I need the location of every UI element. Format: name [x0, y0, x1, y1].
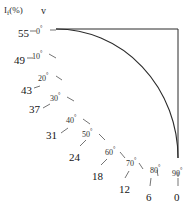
- degree-sign: °: [158, 164, 160, 170]
- degree-sign: °: [58, 92, 60, 98]
- curve-tick-mark: [120, 152, 125, 158]
- value-label: 0: [174, 192, 180, 203]
- degree-sign: °: [40, 50, 42, 56]
- value-axis-header: If(%): [4, 6, 23, 15]
- value-tick-mark: [43, 104, 50, 108]
- value-label: 18: [92, 171, 103, 182]
- chart-figure: If(%) v 550°4910°4320°3730°3140°2450°186…: [0, 0, 195, 209]
- value-label: 43: [21, 85, 32, 96]
- value-tick-mark: [80, 140, 86, 146]
- degree-sign: °: [134, 157, 136, 163]
- value-tick-mark: [61, 128, 68, 133]
- value-label: 24: [69, 152, 80, 163]
- tick-mark-group: [27, 30, 178, 186]
- angle-axis-header: v: [41, 6, 46, 16]
- degree-sign: °: [74, 114, 76, 120]
- angle-label: 80°: [150, 167, 160, 175]
- angle-label-number: 30: [50, 94, 58, 103]
- degree-sign: °: [40, 25, 42, 31]
- angle-label: 90°: [172, 170, 182, 178]
- value-tick-mark: [150, 178, 151, 186]
- curve-tick-mark: [99, 134, 105, 140]
- angle-label-number: 70: [126, 159, 134, 168]
- angle-label: 0°: [36, 28, 42, 36]
- value-tick-mark: [125, 171, 129, 178]
- curve-tick-mark: [83, 119, 90, 124]
- angle-label: 20°: [38, 75, 48, 83]
- angle-label: 40°: [66, 117, 76, 125]
- value-tick-mark: [101, 159, 107, 165]
- angle-label-number: 50: [82, 130, 90, 139]
- angle-label: 30°: [50, 95, 60, 103]
- curve-tick-mark: [56, 76, 62, 80]
- degree-sign: °: [90, 128, 92, 134]
- value-label: 55: [18, 28, 29, 39]
- angle-label: 10°: [32, 53, 42, 61]
- value-label: 6: [146, 192, 152, 203]
- value-label: 49: [14, 55, 25, 66]
- angle-label-number: 90: [172, 169, 180, 178]
- value-axis-header-subscript: f: [7, 9, 9, 16]
- degree-sign: °: [46, 72, 48, 78]
- value-label: 37: [29, 104, 40, 115]
- angle-label-number: 60: [105, 148, 113, 157]
- curve-tick-mark: [49, 54, 56, 58]
- degree-sign: °: [113, 146, 115, 152]
- curve-tick-mark: [139, 163, 143, 169]
- nomogram-curve: [56, 29, 178, 158]
- angle-label: 70°: [126, 160, 136, 168]
- angle-label: 50°: [82, 131, 92, 139]
- value-label: 12: [119, 184, 130, 195]
- angle-label-number: 10: [32, 52, 40, 61]
- value-axis-header-unit: (%): [9, 5, 23, 15]
- degree-sign: °: [180, 167, 182, 173]
- value-tick-mark: [34, 86, 40, 88]
- angle-label-number: 20: [38, 74, 46, 83]
- angle-label: 60°: [105, 149, 115, 157]
- curve-tick-mark: [67, 97, 74, 101]
- value-label: 31: [46, 130, 57, 141]
- angle-label-number: 80: [150, 166, 158, 175]
- angle-label-number: 40: [66, 116, 74, 125]
